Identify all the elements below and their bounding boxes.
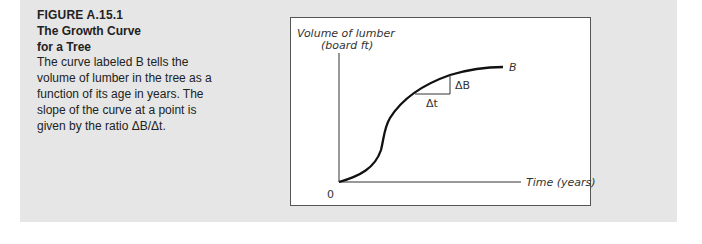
delta-t-label: Δt [426,97,439,110]
growth-curve-b [339,67,503,182]
x-axis-label: Time (years) [526,176,596,189]
growth-chart: Volume of lumber (board ft) Time (years)… [0,0,702,244]
origin-label: 0 [327,188,334,201]
delta-b-label: ΔB [455,79,470,92]
curve-label-b: B [509,61,517,74]
y-axis-label-line2: (board ft) [321,39,373,52]
